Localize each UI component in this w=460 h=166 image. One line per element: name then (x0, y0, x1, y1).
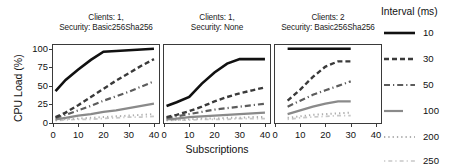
legend-item-100[interactable]: 100 (381, 104, 459, 118)
x-tick-mark (164, 124, 165, 127)
plot-lines-2 (275, 45, 381, 123)
series-line-50 (288, 81, 351, 106)
legend: Interval (ms) 103050100200250 (381, 4, 459, 162)
x-tick-label: 30 (226, 129, 254, 140)
legend-label-200: 200 (423, 131, 439, 142)
plot-lines-1 (164, 45, 270, 123)
y-tick-label: 100 (22, 43, 48, 54)
plot-area-2 (274, 44, 382, 124)
series-line-200 (288, 113, 351, 118)
y-tick-label: 25 (22, 98, 48, 109)
y-tick-label: 0 (22, 117, 48, 128)
legend-swatch-30 (383, 52, 417, 66)
x-tick-label: 20 (311, 129, 339, 140)
legend-item-10[interactable]: 10 (381, 26, 459, 40)
x-tick-label: 20 (89, 129, 117, 140)
x-tick-mark (275, 124, 276, 127)
legend-swatch-200 (383, 130, 417, 144)
y-tick-label: 50 (22, 80, 48, 91)
x-tick-label: 10 (175, 129, 203, 140)
y-tick-mark (49, 49, 52, 50)
legend-swatch-250 (383, 154, 417, 166)
x-tick-label: 0 (150, 129, 178, 140)
legend-item-50[interactable]: 50 (381, 78, 459, 92)
x-tick-label: 10 (64, 129, 92, 140)
x-tick-label: 20 (200, 129, 228, 140)
x-tick-mark (325, 124, 326, 127)
plot-area-0 (52, 44, 160, 124)
legend-item-250[interactable]: 250 (381, 154, 459, 166)
legend-label-250: 250 (423, 155, 439, 166)
legend-label-10: 10 (423, 27, 434, 38)
legend-item-30[interactable]: 30 (381, 52, 459, 66)
x-axis-label: Subscriptions (123, 143, 311, 155)
y-tick-mark (49, 123, 52, 124)
x-tick-label: 0 (39, 129, 67, 140)
x-tick-mark (376, 124, 377, 127)
x-tick-mark (265, 124, 266, 127)
x-tick-mark (103, 124, 104, 127)
series-line-10 (167, 59, 265, 106)
legend-label-100: 100 (423, 105, 439, 116)
x-tick-mark (189, 124, 190, 127)
y-tick-mark (49, 86, 52, 87)
y-tick-mark (49, 67, 52, 68)
x-tick-mark (53, 124, 54, 127)
x-tick-mark (78, 124, 79, 127)
x-tick-mark (129, 124, 130, 127)
y-tick-mark (49, 104, 52, 105)
x-tick-label: 30 (337, 129, 365, 140)
x-tick-label: 10 (286, 129, 314, 140)
y-tick-label: 75 (22, 61, 48, 72)
chart-figure: CPU Load (%) Subscriptions Clients: 1, S… (0, 0, 460, 166)
x-tick-mark (240, 124, 241, 127)
x-tick-mark (351, 124, 352, 127)
series-line-10 (56, 49, 154, 91)
x-tick-mark (300, 124, 301, 127)
legend-swatch-50 (383, 78, 417, 92)
legend-label-30: 30 (423, 53, 434, 64)
series-line-30 (288, 61, 351, 100)
legend-item-200[interactable]: 200 (381, 130, 459, 144)
x-tick-mark (154, 124, 155, 127)
legend-swatch-10 (383, 26, 417, 40)
legend-title: Interval (ms) (381, 6, 459, 17)
plot-lines-0 (53, 45, 159, 123)
x-tick-mark (214, 124, 215, 127)
plot-area-1 (163, 44, 271, 124)
x-tick-label: 30 (115, 129, 143, 140)
legend-label-50: 50 (423, 79, 434, 90)
x-tick-label: 0 (261, 129, 289, 140)
legend-swatch-100 (383, 104, 417, 118)
